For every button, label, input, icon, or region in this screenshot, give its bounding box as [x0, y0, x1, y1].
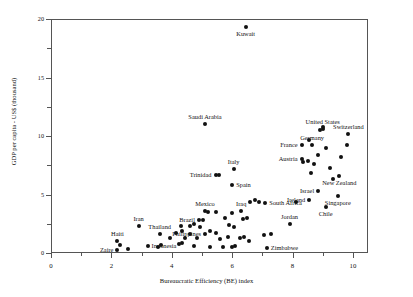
y-axis-title: GDP per capita - US$ (thousand) [10, 47, 17, 197]
data-point-unlabeled [188, 224, 192, 228]
x-tick-label: 10 [343, 262, 363, 269]
data-point-unlabeled [233, 244, 237, 248]
data-point [239, 209, 243, 213]
data-point-unlabeled [192, 244, 196, 248]
y-tick [46, 78, 51, 79]
point-label: Mexico [195, 200, 215, 206]
data-point [300, 143, 304, 147]
data-point [321, 127, 325, 131]
data-point-unlabeled [309, 171, 313, 175]
data-point-unlabeled [241, 217, 245, 221]
data-point-unlabeled [262, 233, 266, 237]
point-label: Brazil [179, 217, 195, 223]
x-tick-minor [262, 253, 263, 256]
point-label: Kuwait [236, 31, 255, 37]
data-point [263, 201, 267, 205]
data-point-unlabeled [345, 143, 349, 147]
point-label: Indonesia [152, 243, 177, 249]
x-tick-label: 8 [283, 262, 303, 269]
point-label: Italy [228, 158, 240, 164]
x-tick-minor [323, 253, 324, 256]
data-point [158, 232, 162, 236]
y-tick [46, 195, 51, 196]
data-point-unlabeled [198, 225, 202, 229]
point-label: Israel [300, 188, 314, 194]
point-label: Saudi Arabia [188, 114, 221, 120]
data-point-unlabeled [339, 155, 343, 159]
point-label: Iran [133, 216, 143, 222]
data-point-unlabeled [245, 216, 249, 220]
data-point [197, 218, 201, 222]
data-point [137, 224, 141, 228]
data-point-unlabeled [312, 162, 316, 166]
data-point [203, 122, 207, 126]
data-point-unlabeled [227, 223, 231, 227]
x-tick [353, 253, 354, 258]
data-point [310, 143, 314, 147]
data-point [288, 222, 292, 226]
point-label: Singapore [325, 200, 351, 206]
data-point-unlabeled [208, 245, 212, 249]
data-point-unlabeled [180, 241, 184, 245]
y-tick-minor [47, 107, 51, 108]
point-label: Trinidad [190, 171, 212, 177]
data-point-unlabeled [257, 200, 261, 204]
data-point [346, 132, 350, 136]
data-point [232, 167, 236, 171]
point-label: Chile [319, 211, 333, 217]
data-point [307, 198, 311, 202]
x-tick [51, 253, 52, 258]
data-point-unlabeled [269, 232, 273, 236]
data-point [115, 248, 119, 252]
y-tick-minor [47, 224, 51, 225]
x-tick [293, 253, 294, 258]
data-point-unlabeled [238, 236, 242, 240]
y-tick-minor [47, 48, 51, 49]
data-point [244, 25, 248, 29]
y-tick-label: 5 [24, 191, 44, 198]
y-tick [46, 136, 51, 137]
scatter-chart: Bureaucratic Efficiency (BE) index GDP p… [0, 0, 413, 297]
point-label: New Zealand [322, 180, 356, 186]
point-label: Spain [236, 182, 251, 188]
data-point-unlabeled [118, 243, 122, 247]
point-label: Austria [279, 156, 298, 162]
data-point [316, 189, 320, 193]
x-axis-title: Bureaucratic Efficiency (BE) index [0, 277, 413, 284]
data-point-unlabeled [253, 198, 257, 202]
data-point-unlabeled [126, 247, 130, 251]
y-tick-label: 0 [24, 249, 44, 256]
point-label: Haiti [111, 231, 124, 237]
data-point-unlabeled [316, 153, 320, 157]
point-label: Jordan [281, 213, 298, 219]
y-tick-label: 10 [24, 132, 44, 139]
point-label: Switzerland [333, 123, 364, 129]
data-point-unlabeled [232, 225, 236, 229]
y-tick [46, 19, 51, 20]
data-point-unlabeled [242, 235, 246, 239]
x-tick-label: 2 [101, 262, 121, 269]
data-point-unlabeled [223, 216, 227, 220]
point-label: South Africa [269, 199, 301, 205]
data-point-unlabeled [328, 166, 332, 170]
point-label: Iraq [236, 200, 246, 206]
data-point [337, 174, 341, 178]
point-label: Thailand [148, 224, 171, 230]
point-label: France [280, 142, 297, 148]
data-point-unlabeled [208, 229, 212, 233]
data-point-unlabeled [214, 231, 218, 235]
data-point-unlabeled [214, 210, 218, 214]
x-tick-minor [202, 253, 203, 256]
data-point-unlabeled [230, 211, 234, 215]
x-tick-label: 4 [162, 262, 182, 269]
y-tick-minor [47, 165, 51, 166]
data-point [203, 209, 207, 213]
data-point-unlabeled [324, 146, 328, 150]
x-tick-minor [142, 253, 143, 256]
y-tick-label: 15 [24, 74, 44, 81]
data-point [146, 244, 150, 248]
data-point [265, 246, 269, 250]
data-point [230, 183, 234, 187]
point-label: Zaire [100, 247, 113, 253]
point-label: Zimbabwe [271, 245, 298, 251]
